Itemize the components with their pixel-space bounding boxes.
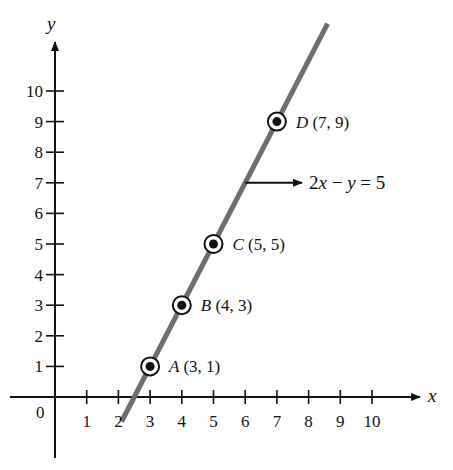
- y-axis-label: y: [45, 13, 56, 34]
- point-label: B (4, 3): [201, 296, 252, 315]
- y-tick-label: 4: [35, 266, 44, 285]
- point-b: [173, 296, 191, 314]
- coordinate-plane: xy01234567891012345678910A (3, 1)B (4, 3…: [0, 0, 453, 470]
- point-label: D (7, 9): [295, 113, 349, 132]
- x-axis-label: x: [427, 385, 437, 406]
- x-tick-label: 7: [273, 412, 282, 431]
- x-tick-label: 1: [82, 412, 91, 431]
- point-d: [268, 113, 286, 131]
- y-tick-label: 8: [35, 143, 44, 162]
- point-label: C (5, 5): [233, 235, 285, 254]
- y-tick-label: 7: [35, 174, 44, 193]
- x-tick-label: 8: [304, 412, 313, 431]
- y-tick-label: 1: [35, 357, 44, 376]
- equation-label: 2x − y = 5: [309, 172, 385, 193]
- y-tick-label: 5: [35, 235, 44, 254]
- y-tick-label: 6: [35, 204, 44, 223]
- x-tick-label: 2: [114, 412, 123, 431]
- x-tick-label: 6: [241, 412, 250, 431]
- x-tick-label: 4: [178, 412, 187, 431]
- y-tick-label: 9: [35, 113, 44, 132]
- point-label: A (3, 1): [168, 357, 220, 376]
- labels: xy01234567891012345678910A (3, 1)B (4, 3…: [26, 13, 437, 431]
- y-tick-label: 3: [35, 296, 44, 315]
- point-c: [205, 235, 223, 253]
- x-tick-label: 3: [146, 412, 155, 431]
- point-a: [141, 357, 159, 375]
- x-tick-label: 9: [336, 412, 345, 431]
- origin-label: 0: [36, 403, 45, 422]
- y-tick-label: 2: [35, 327, 44, 346]
- y-tick-label: 10: [26, 82, 43, 101]
- x-tick-label: 5: [209, 412, 218, 431]
- x-tick-label: 10: [364, 412, 381, 431]
